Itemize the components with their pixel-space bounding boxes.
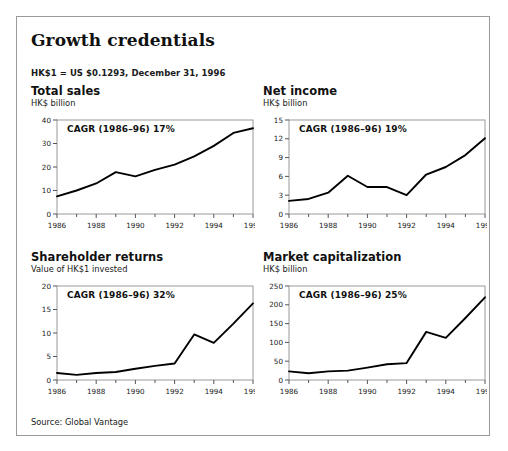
chart-title: Net income — [263, 85, 487, 98]
chart-annotation-cagr: CAGR (1986–96) 17% — [67, 124, 175, 134]
y-axis-tick-label: 12 — [274, 134, 283, 143]
x-axis-tick-label: 1986 — [280, 387, 299, 396]
x-axis-tick-label: 1992 — [165, 221, 183, 230]
x-axis-tick-label: 1990 — [358, 221, 377, 230]
x-axis-tick-label: 1990 — [126, 221, 145, 230]
chart-annotation-cagr: CAGR (1986–96) 19% — [299, 124, 407, 134]
y-axis-tick-label: 9 — [278, 153, 283, 162]
exhibit-panel: Growth credentials HK$1 = US $0.1293, De… — [16, 16, 490, 436]
x-axis-tick-label: 1994 — [205, 221, 224, 230]
x-axis-tick-label: 1996 — [476, 387, 487, 396]
chart-annotation-cagr: CAGR (1986–96) 32% — [67, 290, 175, 300]
chart-panel-shareholder-returns: Shareholder returns Value of HK$1 invest… — [31, 251, 255, 409]
x-axis-tick-label: 1988 — [87, 221, 106, 230]
y-axis-tick-label: 15 — [274, 115, 283, 124]
data-series-line — [57, 128, 253, 196]
x-axis-tick-label: 1986 — [48, 387, 67, 396]
x-axis-tick-label: 1988 — [319, 221, 338, 230]
y-axis-tick-label: 250 — [269, 281, 283, 290]
exhibit-content: Growth credentials HK$1 = US $0.1293, De… — [17, 17, 489, 435]
data-series-line — [289, 297, 485, 373]
x-axis-tick-label: 1992 — [397, 387, 415, 396]
y-axis-tick-label: 30 — [42, 139, 52, 148]
chart-panel-net-income: Net income HK$ billion 03691215198619881… — [263, 85, 487, 243]
chart-plot-area: 010203040198619881990199219941996 CAGR (… — [31, 114, 255, 238]
y-axis-tick-label: 20 — [42, 162, 52, 171]
x-axis-tick-label: 1994 — [437, 221, 456, 230]
plot-frame — [57, 120, 253, 214]
y-axis-tick-label: 150 — [269, 319, 283, 328]
exchange-rate-note: HK$1 = US $0.1293, December 31, 1996 — [31, 68, 477, 78]
x-axis-tick-label: 1986 — [48, 221, 67, 230]
x-axis-tick-label: 1988 — [319, 387, 338, 396]
chart-annotation-cagr: CAGR (1986–96) 25% — [299, 290, 407, 300]
x-axis-tick-label: 1988 — [87, 387, 106, 396]
y-axis-tick-label: 0 — [46, 209, 51, 218]
y-axis-tick-label: 10 — [42, 186, 52, 195]
chart-plot-area: 03691215198619881990199219941996 CAGR (1… — [263, 114, 487, 238]
chart-plot-area: 05101520198619881990199219941996 CAGR (1… — [31, 280, 255, 404]
plot-frame — [289, 286, 485, 380]
y-axis-tick-label: 50 — [274, 357, 284, 366]
x-axis-tick-label: 1992 — [397, 221, 415, 230]
x-axis-tick-label: 1996 — [244, 221, 255, 230]
chart-title: Total sales — [31, 85, 255, 98]
chart-panel-total-sales: Total sales HK$ billion 0102030401986198… — [31, 85, 255, 243]
chart-plot-area: 050100150200250198619881990199219941996 … — [263, 280, 487, 404]
y-axis-tick-label: 10 — [42, 328, 52, 337]
source-note: Source: Global Vantage — [31, 417, 128, 427]
y-axis-tick-label: 100 — [269, 338, 283, 347]
x-axis-tick-label: 1990 — [358, 387, 377, 396]
data-series-line — [289, 138, 485, 201]
chart-unit-label: HK$ billion — [263, 99, 487, 109]
chart-unit-label: Value of HK$1 invested — [31, 265, 255, 275]
x-axis-tick-label: 1994 — [437, 387, 456, 396]
y-axis-tick-label: 15 — [42, 305, 51, 314]
y-axis-tick-label: 0 — [46, 375, 51, 384]
y-axis-tick-label: 0 — [278, 209, 283, 218]
y-axis-tick-label: 6 — [278, 172, 283, 181]
y-axis-tick-label: 5 — [46, 352, 51, 361]
chart-panel-market-capitalization: Market capitalization HK$ billion 050100… — [263, 251, 487, 409]
x-axis-tick-label: 1990 — [126, 387, 145, 396]
x-axis-tick-label: 1986 — [280, 221, 299, 230]
x-axis-tick-label: 1996 — [476, 221, 487, 230]
y-axis-tick-label: 0 — [278, 375, 283, 384]
chart-title: Market capitalization — [263, 251, 487, 264]
y-axis-tick-label: 3 — [278, 191, 283, 200]
chart-unit-label: HK$ billion — [31, 99, 255, 109]
y-axis-tick-label: 200 — [269, 300, 283, 309]
y-axis-tick-label: 20 — [42, 281, 52, 290]
x-axis-tick-label: 1996 — [244, 387, 255, 396]
x-axis-tick-label: 1992 — [165, 387, 183, 396]
data-series-line — [57, 303, 253, 374]
chart-unit-label: HK$ billion — [263, 265, 487, 275]
y-axis-tick-label: 40 — [42, 115, 52, 124]
plot-frame — [289, 120, 485, 214]
x-axis-tick-label: 1994 — [205, 387, 224, 396]
page-title: Growth credentials — [31, 31, 477, 50]
chart-title: Shareholder returns — [31, 251, 255, 264]
